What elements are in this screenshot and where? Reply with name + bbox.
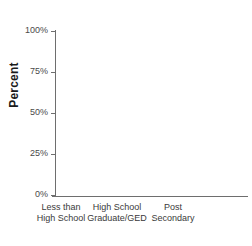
x-axis-label-post-secondary: Post Secondary bbox=[135, 202, 211, 224]
y-tick-label-0: 0% bbox=[2, 190, 48, 199]
x-axis-line bbox=[52, 196, 248, 197]
y-tick-label-25: 25% bbox=[2, 149, 48, 158]
y-tick-mark-75 bbox=[51, 72, 55, 73]
x-axis-label-line-2: Secondary bbox=[135, 213, 211, 224]
plot-area bbox=[57, 31, 224, 195]
y-tick-mark-100 bbox=[51, 31, 55, 32]
y-tick-label-100: 100% bbox=[2, 26, 48, 35]
y-tick-mark-0 bbox=[51, 195, 55, 196]
x-axis-label-line-1: Post bbox=[135, 202, 211, 213]
y-axis-line bbox=[55, 30, 56, 196]
y-tick-mark-25 bbox=[51, 154, 55, 155]
y-tick-label-50: 50% bbox=[2, 108, 48, 117]
y-tick-mark-50 bbox=[51, 113, 55, 114]
y-tick-label-75: 75% bbox=[2, 67, 48, 76]
stacked-bar-chart: Percent 100% 75% 50% 25% 0% Less than bbox=[0, 0, 252, 246]
